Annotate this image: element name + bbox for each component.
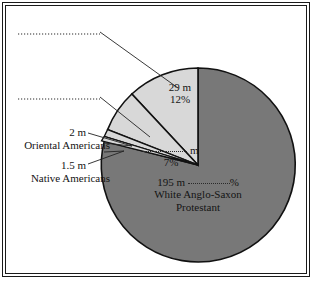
slice-1-label-group: 29 m 12% (152, 81, 208, 106)
wasp-label-group: 195 m % White Anglo-Saxon Protestant (128, 176, 268, 213)
native-americans-value: 1.5 m (24, 159, 86, 171)
native-americans-name: Native Americans (8, 172, 110, 184)
wasp-value: 195 m (157, 176, 185, 188)
pie-chart-figure: 29 m 12% m 7% 195 m % White Anglo-Saxon … (0, 0, 314, 281)
slice-1-value: 29 m (152, 81, 208, 93)
wasp-value-line: 195 m % (128, 176, 268, 188)
oriental-americans-name: Oriental Americans (8, 139, 110, 151)
oriental-americans-value: 2 m (24, 126, 86, 138)
slice-2-label-group: m 7% (143, 144, 199, 169)
wasp-percent-unit: % (230, 176, 239, 188)
wasp-name-line-1: White Anglo-Saxon (128, 188, 268, 200)
leader-line-to-slice-1 (100, 32, 178, 88)
slice-2-percent: 7% (143, 156, 199, 168)
wasp-name-line-2: Protestant (128, 201, 268, 213)
wasp-percent-blank[interactable] (188, 183, 230, 184)
slice-2-value-unit: m (190, 144, 199, 156)
slice-2-value: m (143, 144, 199, 156)
slice-1-percent: 12% (152, 93, 208, 105)
slice-2-value-blank[interactable] (143, 151, 187, 152)
